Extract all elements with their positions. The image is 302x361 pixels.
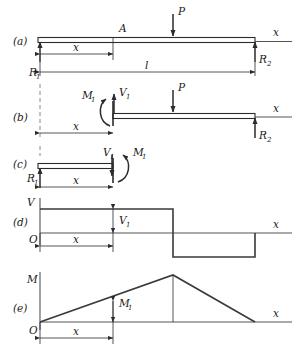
beam-diagram-figure: (a) (b) (c) (d) (e) A P R 1 R 2 x x l M … — [0, 0, 302, 361]
load-label-b: P — [177, 81, 186, 93]
shear-sub-b: 1 — [126, 93, 130, 101]
load-label-a: P — [177, 5, 186, 17]
beam-a — [38, 38, 255, 43]
panel-label-e: (e) — [13, 302, 27, 314]
reaction-right-label-b: R — [258, 129, 267, 141]
shear-sub-c: 1 — [110, 153, 114, 161]
origin-label-e: O — [29, 324, 38, 336]
panel-c-group — [38, 146, 129, 188]
reaction-right-label-a: R — [258, 53, 267, 65]
beam-b — [113, 114, 255, 119]
moment-sub-c: 1 — [142, 153, 146, 161]
origin-label-d: O — [29, 233, 38, 245]
moment-value-sub-e: 1 — [128, 304, 132, 312]
shear-value-sub-d: 1 — [126, 221, 130, 229]
panel-label-d: (d) — [13, 216, 28, 228]
reaction-left-sub-c: 1 — [34, 179, 38, 187]
dim-x-label-a: x — [73, 41, 79, 53]
moment-axis-label-e: M — [26, 273, 38, 285]
moment-diagram-curve — [40, 275, 255, 322]
dim-x-label-b: x — [73, 120, 79, 132]
axis-label-e: x — [273, 307, 279, 319]
panel-d-group — [40, 198, 292, 257]
axis-label-a: x — [273, 26, 279, 38]
dim-x-label-c: x — [73, 174, 79, 186]
panel-label-c: (c) — [13, 158, 27, 170]
reaction-right-sub-a: 2 — [266, 60, 272, 68]
panel-label-b: (b) — [13, 111, 28, 123]
moment-arc-b — [100, 99, 110, 126]
figure-canvas: (a) (b) (c) (d) (e) A P R 1 R 2 x x l M … — [0, 0, 302, 361]
beam-c — [38, 164, 113, 169]
reaction-left-sub-a: 1 — [36, 73, 40, 81]
axis-label-d: x — [273, 218, 279, 230]
axis-label-b: x — [273, 102, 279, 114]
shear-axis-label-d: V — [27, 196, 36, 208]
moment-sub-b: 1 — [91, 96, 95, 104]
dim-x-label-d: x — [73, 233, 79, 245]
panel-label-a: (a) — [13, 35, 27, 47]
dim-length-label-a: l — [145, 59, 148, 71]
moment-arc-c — [118, 155, 129, 182]
section-label-a: A — [118, 22, 127, 34]
reaction-right-sub-b: 2 — [266, 136, 272, 144]
dim-x-label-e: x — [73, 325, 79, 337]
